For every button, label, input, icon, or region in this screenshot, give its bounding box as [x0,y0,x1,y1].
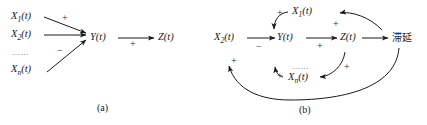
label-a-xn: Xn(t) [11,64,31,77]
label-a-x1: X1(t) [11,11,31,24]
sign-b-xn-y: + [277,71,283,81]
sign-b-x1-y: + [277,8,283,18]
label-b-ellipsis: …… [292,63,309,71]
caption-b: (b) [299,105,311,115]
figure-container: X1(t) X2(t) …… Xn(t) Y(t) Z(t) + − + (a)… [0,0,427,125]
label-b-x1: X1(t) [292,6,312,19]
label-b-delay: 滞延 [392,33,412,43]
label-a-x2: X2(t) [11,29,31,42]
sign-b-delay-z: + [333,19,339,29]
label-b-z: Z(t) [340,32,356,43]
sign-b-y-z: + [317,41,323,51]
label-a-ellipsis: …… [12,49,29,57]
sign-a-xn-y: − [57,46,63,56]
label-b-y: Y(t) [277,32,293,43]
caption-a: (a) [97,103,108,113]
label-b-x2: X2(t) [214,32,234,45]
sign-a-y-z: + [130,39,136,49]
sign-b-delay-x2: + [231,56,237,66]
label-a-z: Z(t) [158,32,174,43]
edge-b-delay-to-z-upper [340,13,382,30]
edge-xn-to-y [47,40,86,72]
label-a-y: Y(t) [90,32,106,43]
sign-a-x1-y: + [62,13,68,23]
edge-b-delay-to-x2 [229,48,399,100]
sign-b-z-xn: + [344,62,350,72]
label-b-xn: Xn(t) [288,72,308,85]
edge-b-z-to-xn [320,52,345,77]
panel-b-edges [229,12,399,100]
sign-b-x2-y: − [256,42,262,52]
